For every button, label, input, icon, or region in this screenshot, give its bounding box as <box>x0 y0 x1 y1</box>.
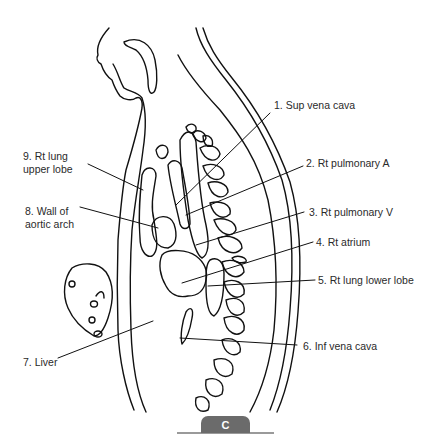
label-rt-atrium: 4. Rt atrium <box>316 236 370 249</box>
great-vessel-column <box>180 132 208 258</box>
liver-vessel-3 <box>89 317 95 323</box>
label-sup-vena-cava: 1. Sup vena cava <box>274 99 355 112</box>
rt-lung-upper-lobe <box>139 168 157 256</box>
label-line-2: aortic arch <box>25 218 74 231</box>
rt-atrium <box>160 251 207 297</box>
liver <box>65 264 113 336</box>
label-line-1: 8. Wall of <box>25 205 74 218</box>
label-line-1: 9. Rt lung <box>23 150 73 163</box>
panel-label-tab: C <box>201 416 250 433</box>
label-rt-lung-lower-lobe: 5. Rt lung lower lobe <box>318 274 414 287</box>
spinal-cord-outer <box>178 55 276 412</box>
small-round-structure <box>156 145 168 158</box>
liver-inner-contour <box>96 292 104 298</box>
liver-vessel-2 <box>91 301 98 307</box>
label-line-2: upper lobe <box>23 163 73 176</box>
back-skin-outer <box>196 28 292 410</box>
vertebral-column <box>186 124 246 411</box>
label-inf-vena-cava: 6. Inf vena cava <box>303 340 377 353</box>
label-rt-pulmonary-a: 2. Rt pulmonary A <box>306 157 389 170</box>
face-neck-contour <box>97 28 142 410</box>
label-rt-lung-upper-lobe: 9. Rt lung upper lobe <box>23 150 73 176</box>
palate-shape <box>124 40 157 94</box>
label-liver: 7. Liver <box>23 356 57 369</box>
label-wall-of-aortic-arch: 8. Wall of aortic arch <box>25 205 74 231</box>
label-rt-pulmonary-v: 3. Rt pulmonary V <box>309 206 393 219</box>
rt-lung-lower-lobe <box>206 259 224 316</box>
liver-vessel-1 <box>69 281 75 287</box>
